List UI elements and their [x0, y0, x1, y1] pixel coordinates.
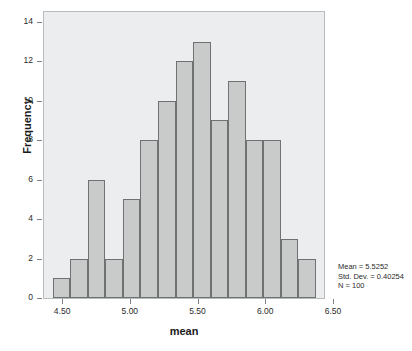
histogram-figure: Frequency 02468101214 4.505.005.506.006.…	[0, 0, 412, 351]
stat-mean: Mean = 5.5252	[338, 262, 404, 272]
y-tick-label: 2	[0, 253, 33, 263]
stat-stddev: Std. Dev. = 0.40254	[338, 272, 404, 282]
histogram-bar	[158, 101, 176, 298]
histogram-bar	[123, 199, 141, 298]
histogram-bar	[105, 259, 123, 298]
y-tick-label: 6	[0, 174, 33, 184]
y-tick-label: 14	[0, 16, 33, 26]
histogram-bar	[193, 42, 211, 298]
y-tick-mark	[37, 298, 42, 299]
y-tick-mark	[37, 219, 42, 220]
histogram-bar	[70, 259, 88, 298]
x-tick-label: 6.00	[245, 306, 285, 316]
y-tick-label: 10	[0, 95, 33, 105]
histogram-bar	[228, 81, 246, 298]
y-tick-label: 4	[0, 213, 33, 223]
y-tick-mark	[37, 140, 42, 141]
x-tick-label: 6.50	[313, 306, 353, 316]
histogram-bar	[281, 239, 299, 298]
y-tick-mark	[37, 180, 42, 181]
x-tick-mark	[130, 299, 131, 304]
x-axis-title: mean	[43, 325, 325, 337]
plot-area	[43, 11, 325, 299]
histogram-bar	[211, 120, 229, 298]
x-tick-label: 5.50	[178, 306, 218, 316]
histogram-bar	[246, 140, 264, 298]
x-tick-label: 5.00	[110, 306, 150, 316]
y-axis-title: Frequency	[21, 71, 33, 181]
y-tick-mark	[37, 61, 42, 62]
y-tick-label: 8	[0, 134, 33, 144]
histogram-bar	[88, 180, 106, 298]
histogram-bars	[44, 12, 324, 298]
histogram-bar	[176, 61, 194, 298]
histogram-bar	[263, 140, 281, 298]
stat-n: N = 100	[338, 281, 404, 291]
statistics-annotation: Mean = 5.5252 Std. Dev. = 0.40254 N = 10…	[338, 262, 404, 291]
histogram-bar	[298, 259, 316, 298]
y-tick-mark	[37, 22, 42, 23]
y-tick-label: 0	[0, 292, 33, 302]
x-tick-label: 4.50	[42, 306, 82, 316]
y-tick-label: 12	[0, 55, 33, 65]
x-tick-mark	[198, 299, 199, 304]
histogram-bar	[53, 278, 71, 298]
histogram-bar	[140, 140, 158, 298]
y-tick-mark	[37, 101, 42, 102]
x-tick-mark	[333, 299, 334, 304]
x-tick-mark	[62, 299, 63, 304]
x-tick-mark	[265, 299, 266, 304]
y-tick-mark	[37, 259, 42, 260]
